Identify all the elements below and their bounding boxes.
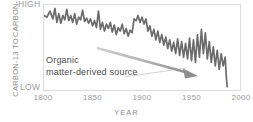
y-axis-title-line-1: CARBON-13 TO: [11, 38, 20, 97]
x-axis-tick-labels: 18001850190019502000: [43, 93, 241, 105]
y-tick-label-high: HIGH: [18, 0, 40, 9]
x-axis-title: YEAR: [0, 108, 253, 117]
x-tick-label-1950: 1950: [182, 93, 201, 102]
x-tick-label-1800: 1800: [34, 93, 53, 102]
x-tick-label-1900: 1900: [133, 93, 152, 102]
annotation-line-2: matter-derived source: [46, 67, 158, 79]
annotation-line-1: Organic: [46, 55, 158, 67]
x-tick-label-2000: 2000: [232, 93, 251, 102]
annotation-label: Organic matter-derived source: [46, 55, 158, 78]
chart-figure: CARBON-13 TO CARBON-12 RATIO HIGH LOW 18…: [0, 0, 253, 122]
y-tick-label-low: LOW: [20, 82, 40, 92]
x-tick-label-1850: 1850: [83, 93, 102, 102]
data-line-svg: [44, 5, 242, 92]
y-axis-title: CARBON-13 TO CARBON-12 RATIO: [1, 0, 29, 79]
